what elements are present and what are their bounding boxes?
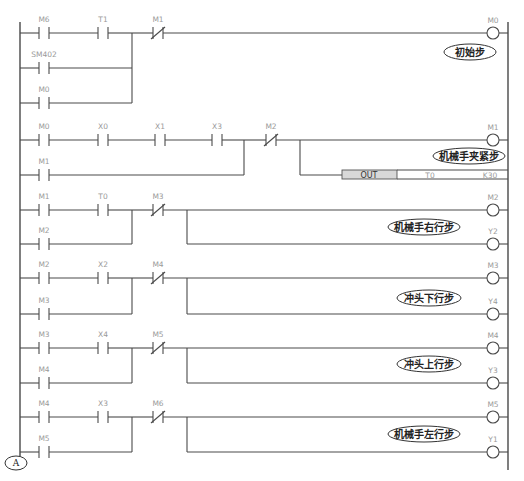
no-contact-m3: M3: [38, 330, 49, 354]
coil-icon: [487, 134, 499, 146]
coil-icon: [487, 272, 499, 284]
contact-label: M3: [152, 192, 163, 201]
step-note: 机械手右行步: [388, 219, 460, 235]
coil-label: M4: [487, 331, 498, 340]
contact-label: M0: [38, 85, 49, 94]
rung: M2X2M3M4M3Y4冲头下行步: [20, 260, 508, 320]
contact-label: M5: [152, 330, 163, 339]
contact-label: X1: [155, 122, 165, 131]
no-contact-x1: X1: [155, 122, 165, 146]
step-note: 机械手左行步: [388, 426, 460, 442]
contact-label: X0: [98, 122, 108, 131]
nc-contact-m5: M5: [151, 330, 165, 354]
coil-label: Y1: [487, 435, 498, 444]
no-contact-m4: M4: [38, 365, 49, 389]
coil-icon: [487, 204, 499, 216]
no-contact-x3: X3: [212, 122, 222, 146]
coil-label: M5: [487, 400, 498, 409]
contact-label: M4: [152, 260, 163, 269]
no-contact-m2: M2: [38, 226, 49, 250]
contact-label: M4: [38, 399, 49, 408]
rungs: M6T1SM402M0M1M0初始步M0X0X1X3M1M2M1OUTT0K30…: [20, 15, 508, 458]
rung: M1T0M2M3M2Y2机械手右行步: [20, 192, 508, 250]
contact-label: M6: [38, 15, 49, 24]
coil-y1: Y1: [487, 435, 499, 458]
contact-label: M4: [38, 365, 49, 374]
no-contact-m4: M4: [38, 399, 49, 423]
coil-label: Y3: [487, 366, 498, 375]
contact-label: M1: [152, 15, 163, 24]
contact-label: T0: [97, 192, 108, 201]
coil-y4: Y4: [487, 297, 499, 320]
contact-label: M3: [38, 296, 49, 305]
no-contact-x3: X3: [98, 399, 108, 423]
no-contact-x0: X0: [98, 122, 108, 146]
coil-label: M1: [487, 123, 498, 132]
no-contact-x4: X4: [98, 330, 108, 354]
nc-contact-m4: M4: [151, 260, 165, 284]
coil-label: M2: [487, 193, 498, 202]
no-contact-m6: M6: [38, 15, 49, 39]
no-contact-m0: M0: [38, 85, 49, 109]
no-contact-x2: X2: [98, 260, 108, 284]
contact-label: M0: [38, 122, 49, 131]
coil-m4: M4: [487, 331, 499, 354]
nc-contact-m6: M6: [151, 399, 165, 423]
rung: M4X3M5M6M5Y1机械手左行步: [20, 399, 508, 458]
contact-label: M6: [152, 399, 163, 408]
coil-label: Y4: [487, 297, 498, 306]
instruction-op: OUT: [360, 171, 377, 180]
coil-m1: M1: [487, 123, 499, 146]
step-note: 冲头上行步: [397, 356, 461, 372]
contact-label: M3: [38, 330, 49, 339]
out-instruction: OUTT0K30: [300, 170, 508, 180]
contact-label: M2: [38, 260, 49, 269]
step-note-label: 机械手右行步: [394, 221, 454, 233]
coil-y2: Y2: [487, 227, 499, 250]
step-note: 冲头下行步: [397, 290, 461, 306]
coil-icon: [487, 377, 499, 389]
coil-label: Y2: [487, 227, 498, 236]
step-note-label: 机械手左行步: [394, 428, 454, 440]
step-note: 初始步: [444, 44, 496, 60]
contact-label: X3: [98, 399, 108, 408]
no-contact-m0: M0: [38, 122, 49, 146]
contact-label: T1: [97, 15, 108, 24]
contact-label: M5: [38, 434, 49, 443]
no-contact-t1: T1: [97, 15, 108, 39]
no-contact-m5: M5: [38, 434, 49, 458]
off-page-connector: A: [5, 456, 27, 470]
coil-m0: M0: [487, 16, 499, 39]
nc-contact-m2: M2: [264, 122, 278, 146]
step-note: 机械手夹紧步: [433, 148, 505, 164]
no-contact-t0: T0: [97, 192, 108, 216]
instruction-operand-constant: K30: [483, 171, 498, 180]
contact-label: SM402: [31, 50, 57, 59]
coil-m5: M5: [487, 400, 499, 423]
rung: M6T1SM402M0M1M0初始步: [20, 15, 508, 109]
contact-label: X4: [98, 330, 108, 339]
coil-m2: M2: [487, 193, 499, 216]
coil-icon: [487, 446, 499, 458]
contact-label: M2: [265, 122, 276, 131]
no-contact-m3: M3: [38, 296, 49, 320]
coil-icon: [487, 27, 499, 39]
no-contact-sm402: SM402: [31, 50, 57, 74]
no-contact-m1: M1: [38, 192, 49, 216]
step-note-label: 机械手夹紧步: [439, 150, 499, 162]
coil-label: M3: [487, 261, 498, 270]
connector-label: A: [12, 458, 20, 468]
instruction-operand-timer: T0: [424, 171, 435, 180]
ladder-diagram: M6T1SM402M0M1M0初始步M0X0X1X3M1M2M1OUTT0K30…: [0, 0, 524, 481]
contact-label: M2: [38, 226, 49, 235]
nc-contact-m3: M3: [151, 192, 165, 216]
contact-label: M1: [38, 157, 49, 166]
step-note-label: 初始步: [455, 46, 485, 58]
rung: M3X4M4M5M4Y3冲头上行步: [20, 330, 508, 389]
contact-label: M1: [38, 192, 49, 201]
coil-icon: [487, 411, 499, 423]
coil-icon: [487, 308, 499, 320]
no-contact-m2: M2: [38, 260, 49, 284]
contact-label: X3: [212, 122, 222, 131]
coil-icon: [487, 238, 499, 250]
